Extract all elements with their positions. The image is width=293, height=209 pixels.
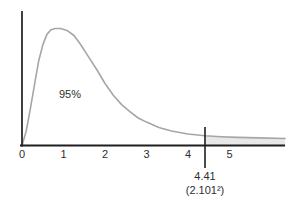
x-tick-label: 1 <box>60 148 66 160</box>
critical-value-label: 4.41 <box>194 170 215 182</box>
distribution-figure: 0 1 2 3 4 5 95% 4.41 (2.101²) <box>0 0 293 209</box>
x-tick-label: 3 <box>143 148 149 160</box>
x-tick-label: 2 <box>102 148 108 160</box>
x-tick-label: 0 <box>19 148 25 160</box>
distribution-chart: 0 1 2 3 4 5 95% 4.41 (2.101²) <box>0 0 293 209</box>
density-curve <box>22 29 285 146</box>
critical-value-sub-label: (2.101²) <box>186 184 225 196</box>
x-tick-label: 4 <box>185 148 191 160</box>
x-tick-label: 5 <box>226 148 232 160</box>
area-percentage-label: 95% <box>59 88 81 100</box>
